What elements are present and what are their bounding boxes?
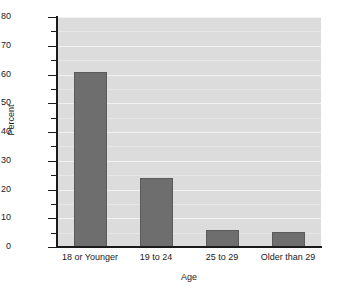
y-tick-major — [48, 46, 56, 47]
y-tick-major — [48, 103, 56, 104]
bars-group — [57, 17, 321, 247]
bar — [74, 72, 107, 247]
x-axis-line — [57, 246, 322, 248]
x-category-label: 19 to 24 — [140, 252, 173, 262]
bar-chart-figure: 01020304050607080 18 or Younger19 to 242… — [0, 0, 340, 296]
y-tick-label: 70 — [1, 41, 11, 50]
x-axis-title: Age — [57, 272, 321, 282]
y-tick-label: 80 — [1, 12, 11, 21]
y-tick-label: 60 — [1, 70, 11, 79]
y-tick-major — [48, 247, 56, 248]
y-axis-line — [56, 16, 58, 248]
x-axis-category-labels: 18 or Younger19 to 2425 to 29Older than … — [57, 252, 321, 266]
y-tick-label: 10 — [1, 213, 11, 222]
y-tick-label: 20 — [1, 185, 11, 194]
bar — [140, 178, 173, 247]
x-category-label: 18 or Younger — [62, 252, 118, 262]
y-tick-major — [48, 190, 56, 191]
bar — [206, 230, 239, 247]
bar — [272, 232, 305, 247]
y-tick-major — [48, 75, 56, 76]
y-tick-major — [48, 132, 56, 133]
y-tick-label: 30 — [1, 156, 11, 165]
y-tick-major — [48, 218, 56, 219]
y-axis-title: Percent — [6, 90, 16, 150]
x-category-label: 25 to 29 — [206, 252, 239, 262]
y-tick-major — [48, 17, 56, 18]
plot-area — [57, 17, 321, 247]
x-category-label: Older than 29 — [261, 252, 316, 262]
y-tick-label: 0 — [6, 242, 11, 251]
y-tick-major — [48, 161, 56, 162]
